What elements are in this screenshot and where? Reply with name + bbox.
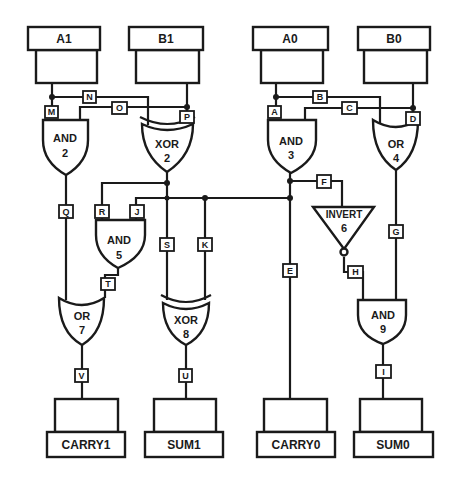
gate-or-4: OR 4: [373, 120, 418, 170]
svg-text:B: B: [317, 92, 324, 102]
gate-8-number: 8: [183, 328, 189, 340]
gate-and-1: AND 2: [43, 120, 88, 175]
wire-j: [136, 198, 290, 220]
svg-text:S: S: [164, 240, 170, 250]
wire-label-e: E: [283, 264, 297, 277]
gate-8-type: XOR: [174, 314, 198, 326]
and-gate-shape: [358, 300, 406, 344]
wire-label-v: V: [75, 369, 88, 382]
gate-and-3: AND 3: [268, 120, 316, 173]
svg-text:Q: Q: [62, 207, 69, 217]
junction-dot: [49, 94, 55, 100]
output-sum0-register: [360, 399, 422, 432]
output-carry1-label: CARRY1: [62, 438, 111, 452]
output-carry1-register: [55, 399, 118, 432]
wire-label-c: C: [342, 102, 357, 114]
gate-9-type: AND: [371, 309, 395, 321]
output-carry0-register: [264, 399, 327, 432]
wire-label-k: K: [198, 238, 212, 251]
gate-9-number: 9: [380, 323, 386, 335]
input-b0-register: [364, 50, 427, 83]
svg-text:T: T: [105, 279, 111, 289]
svg-text:M: M: [48, 107, 56, 117]
gate-6-number: 6: [341, 222, 347, 234]
gate-7-number: 7: [79, 324, 85, 336]
output-sum0-label: SUM0: [376, 438, 410, 452]
wire-f: [290, 181, 342, 207]
junction-dot: [287, 178, 293, 184]
svg-text:A: A: [271, 107, 278, 117]
junction-dot: [164, 180, 170, 186]
gate-and-5: AND 5: [96, 220, 145, 268]
input-a0-register: [261, 50, 323, 83]
input-b1: B1: [129, 27, 203, 83]
svg-text:P: P: [184, 112, 190, 122]
input-b0-label: B0: [386, 32, 402, 46]
junction-dot: [165, 196, 170, 201]
input-a0: A0: [253, 27, 328, 83]
wire-label-d: D: [406, 112, 420, 125]
junction-dot: [184, 104, 190, 110]
gate-7-type: OR: [74, 310, 91, 322]
svg-text:U: U: [182, 371, 189, 381]
gate-xor-8: XOR 8: [161, 295, 211, 345]
output-carry1: CARRY1: [47, 399, 125, 457]
svg-text:I: I: [382, 367, 385, 377]
svg-text:F: F: [321, 177, 327, 187]
svg-text:R: R: [99, 207, 106, 217]
svg-text:H: H: [352, 267, 359, 277]
gate-1-type: AND: [53, 132, 77, 144]
output-sum0: SUM0: [354, 399, 433, 457]
junction-dot: [410, 105, 416, 111]
wire-label-p: P: [180, 111, 194, 123]
gate-invert-6: INVERT 6: [313, 207, 374, 256]
junction-dot: [273, 94, 279, 100]
svg-text:V: V: [78, 371, 84, 381]
wire-label-f: F: [317, 175, 331, 188]
wire-c: [305, 108, 413, 120]
output-carry0: CARRY0: [257, 399, 335, 457]
wire-label-a: A: [268, 106, 281, 118]
output-sum1-label: SUM1: [167, 438, 201, 452]
wire-label-g: G: [389, 225, 403, 238]
junction-dot: [287, 195, 293, 201]
junction-dots: [49, 94, 416, 201]
wire-label-s: S: [160, 238, 174, 251]
wire-label-m: M: [45, 106, 58, 118]
input-b1-register: [136, 50, 199, 83]
output-carry0-label: CARRY0: [272, 438, 321, 452]
gate-2-number: 2: [164, 152, 170, 164]
gate-2-type: XOR: [155, 138, 179, 150]
gate-xor-2: XOR 2: [140, 117, 195, 172]
junction-dot: [202, 195, 208, 201]
svg-text:O: O: [116, 103, 123, 113]
input-a1-register: [36, 50, 97, 83]
gate-4-number: 4: [393, 152, 400, 164]
output-sum1-register: [154, 399, 216, 432]
wire-label-n: N: [83, 91, 96, 103]
wire-o: [80, 107, 187, 120]
svg-text:N: N: [86, 92, 93, 102]
wire-label-b: B: [313, 91, 327, 103]
circuit-diagram: A1 B1 A0 B0 AND 2 XOR 2 AND 3 OR 4: [0, 0, 458, 485]
wire-label-j: J: [130, 205, 144, 218]
inverter-bubble: [341, 249, 348, 256]
gate-3-number: 3: [288, 149, 294, 161]
input-a0-label: A0: [282, 32, 298, 46]
wire-label-o: O: [112, 102, 127, 114]
wire-label-q: Q: [59, 205, 73, 218]
svg-text:K: K: [202, 240, 209, 250]
wire-label-u: U: [179, 369, 192, 382]
wire-label-r: R: [95, 205, 109, 218]
svg-text:G: G: [392, 227, 399, 237]
output-sum1: SUM1: [145, 399, 223, 457]
wire-label-i: I: [376, 365, 391, 378]
input-a1: A1: [28, 27, 100, 83]
input-b1-label: B1: [158, 32, 174, 46]
gate-3-type: AND: [279, 135, 303, 147]
input-b0: B0: [358, 27, 430, 83]
gate-and-9: AND 9: [358, 300, 406, 344]
gate-5-number: 5: [116, 249, 122, 261]
xor-gate-arc: [161, 295, 211, 302]
wire-label-t: T: [101, 278, 115, 290]
